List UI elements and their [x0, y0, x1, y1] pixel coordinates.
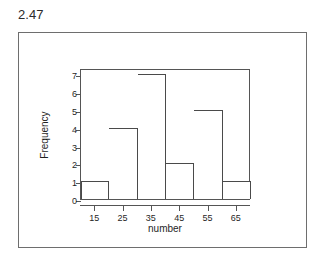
- histogram-bar: [109, 128, 137, 199]
- y-axis-title-text: Frequency: [39, 111, 51, 158]
- histogram-bar: [223, 181, 251, 199]
- x-axis-tick-mark: [123, 206, 124, 211]
- y-axis-tick-label: 0: [72, 197, 77, 206]
- x-axis-tick-label: 15: [89, 213, 99, 223]
- x-axis-title: number: [80, 223, 250, 235]
- y-axis-tick-label: 1: [72, 179, 77, 188]
- figure-page: 2.47 Frequency 01234567 152535455565 num…: [0, 0, 323, 264]
- x-axis-tick-label: 65: [231, 213, 241, 223]
- x-axis-tick-mark: [179, 206, 180, 211]
- y-axis-tick-label: 2: [72, 161, 77, 170]
- histogram-bar: [194, 110, 222, 199]
- figure-frame: Frequency 01234567 152535455565 number: [18, 32, 307, 248]
- x-axis-tick-label: 45: [174, 213, 184, 223]
- y-axis-tick-label: 4: [72, 125, 77, 134]
- x-axis-tick-mark: [236, 206, 237, 211]
- x-axis-tick-label: 25: [117, 213, 127, 223]
- histogram-chart: Frequency 01234567 152535455565 number: [19, 33, 308, 249]
- histogram-bar: [81, 181, 109, 199]
- histogram-bar: [166, 163, 194, 199]
- y-axis-tick-label: 5: [72, 107, 77, 116]
- x-axis-tick-label: 35: [146, 213, 156, 223]
- y-axis-tick-label: 3: [72, 143, 77, 152]
- x-axis-tick-mark: [208, 206, 209, 211]
- histogram-bar: [138, 74, 166, 199]
- y-axis-tick-label: 7: [72, 72, 77, 81]
- x-axis: 152535455565: [80, 205, 250, 206]
- y-axis-title: Frequency: [39, 69, 51, 200]
- x-axis-tick-mark: [94, 206, 95, 211]
- y-axis-tick-label: 6: [72, 90, 77, 99]
- plot-area: 01234567: [80, 69, 250, 200]
- x-axis-tick-label: 55: [202, 213, 212, 223]
- x-axis-tick-mark: [151, 206, 152, 211]
- exercise-number-label: 2.47: [18, 7, 44, 22]
- bars-layer: [81, 70, 249, 199]
